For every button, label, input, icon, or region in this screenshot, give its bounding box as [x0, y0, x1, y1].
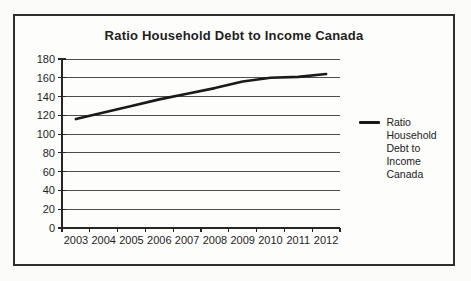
- legend-line-marker: [359, 121, 380, 124]
- legend: Ratio Household Debt to Income Canada: [359, 116, 453, 181]
- chart-canvas: Ratio Household Debt to Income Canada 18…: [0, 0, 471, 281]
- legend-label: Ratio Household Debt to Income Canada: [386, 116, 453, 181]
- x-axis-label: 2012: [306, 234, 346, 247]
- chart-frame: Ratio Household Debt to Income Canada 18…: [13, 14, 455, 266]
